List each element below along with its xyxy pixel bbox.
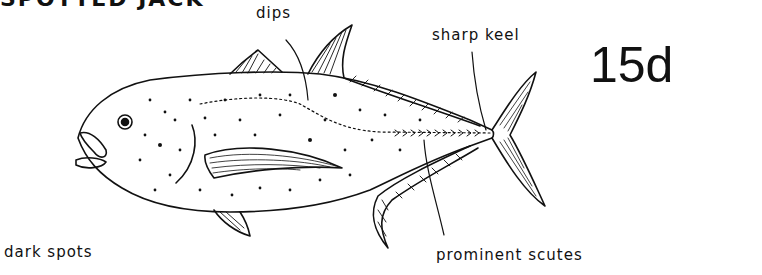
pectoral-fin: [205, 148, 342, 178]
lateral-line: [200, 98, 490, 133]
scutes: [395, 130, 479, 136]
fish-mouth: [80, 132, 106, 157]
anal-fin: [373, 146, 478, 248]
leader-scutes: [424, 140, 444, 235]
fish-body-outline: [78, 72, 494, 212]
leader-dips: [286, 40, 308, 100]
leader-keel: [472, 52, 486, 130]
dark-spots: [139, 93, 422, 196]
caudal-fin: [492, 72, 545, 206]
fish-illustration: [0, 0, 762, 275]
